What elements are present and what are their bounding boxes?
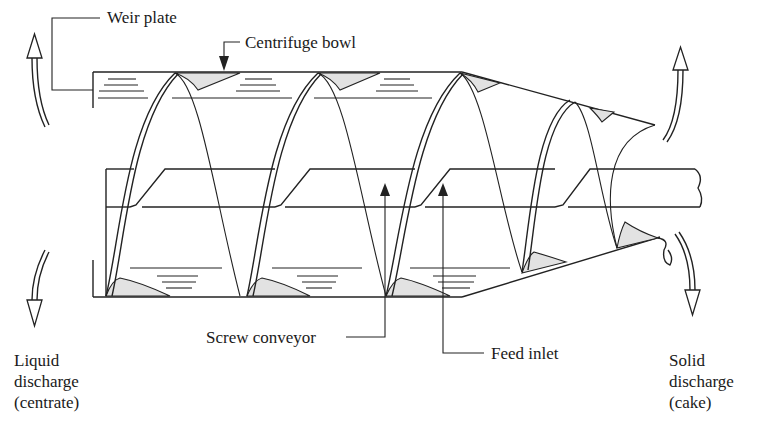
liquid-discharge-label: Liquid discharge (centrate) (14, 350, 79, 413)
feed-inlet-arrowhead (438, 183, 448, 196)
centrifuge-bowl-outline (93, 72, 660, 297)
centrifuge-bowl-arrowhead (219, 56, 229, 71)
liquid-discharge-down-arrow-icon (27, 250, 49, 326)
liquid-discharge-up-arrow-icon (27, 34, 49, 127)
feed-inlet-leader (443, 186, 484, 353)
weir-plate-label: Weir plate (107, 7, 177, 28)
decanter-centrifuge-diagram: Weir plate Centrifuge bowl Screw conveyo… (0, 0, 767, 435)
cake-discharge-lip (658, 238, 672, 265)
liquid-discharge-line-1: Liquid (14, 350, 79, 371)
centrifuge-bowl-label: Centrifuge bowl (245, 32, 356, 53)
screw-conveyor-arrowhead (380, 183, 390, 196)
screw-flights (106, 73, 655, 296)
solid-discharge-up-arrow-icon (663, 47, 688, 142)
liquid-discharge-line-2: discharge (14, 371, 79, 392)
liquid-pool-marks (99, 79, 476, 288)
liquid-discharge-line-3: (centrate) (14, 392, 79, 413)
screw-conveyor-label: Screw conveyor (206, 327, 316, 348)
solid-discharge-line-2: discharge (669, 371, 734, 392)
diagram-drawing (0, 0, 767, 435)
solid-discharge-line-1: Solid (669, 350, 734, 371)
feed-inlet-label: Feed inlet (491, 343, 559, 364)
solid-discharge-label: Solid discharge (cake) (669, 350, 734, 413)
solid-discharge-down-arrow-icon (675, 232, 700, 315)
solid-discharge-line-3: (cake) (669, 392, 734, 413)
